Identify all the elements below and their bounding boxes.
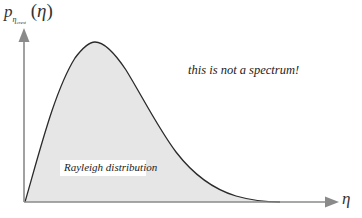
y-axis-label-close-paren: ) xyxy=(47,0,53,21)
x-axis-label: η xyxy=(342,189,350,209)
y-axis-label: pηcrest (η) xyxy=(4,0,53,22)
y-axis-label-symbol: p xyxy=(4,2,13,21)
rayleigh-diagram xyxy=(0,0,362,218)
curve-label-rayleigh: Rayleigh distribution xyxy=(64,161,157,173)
y-axis-arrowhead-icon xyxy=(19,28,30,42)
annotation-not-a-spectrum: this is not a spectrum! xyxy=(188,63,299,78)
y-axis-label-argument: η xyxy=(37,0,46,21)
x-axis-arrowhead-icon xyxy=(325,197,339,208)
y-axis-label-sub-subscript: crest xyxy=(16,20,26,25)
